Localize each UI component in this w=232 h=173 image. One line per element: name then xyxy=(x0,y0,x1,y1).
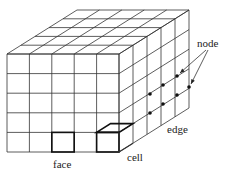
node-dot xyxy=(148,92,152,96)
grid-cube-diagram: node edge face cell xyxy=(0,0,232,173)
label-edge: edge xyxy=(167,123,188,135)
label-node: node xyxy=(197,37,219,49)
node-dot xyxy=(175,93,179,97)
node-dot xyxy=(187,85,191,89)
label-cell: cell xyxy=(127,151,143,163)
label-face: face xyxy=(53,158,71,170)
highlighted-elements xyxy=(52,124,133,152)
node-dots xyxy=(148,74,191,115)
node-dot xyxy=(161,83,165,87)
node-dot xyxy=(148,111,152,115)
node-dot xyxy=(161,102,165,106)
node-dot xyxy=(175,74,179,78)
node-arrows xyxy=(180,50,208,84)
